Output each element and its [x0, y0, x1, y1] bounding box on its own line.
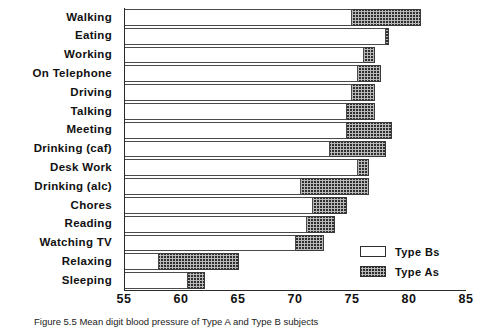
bar-type-bs	[125, 65, 358, 82]
bar-type-bs	[125, 28, 386, 45]
bar-row	[125, 158, 466, 177]
legend-swatch-open-icon	[360, 246, 386, 257]
bar-type-bs	[125, 216, 307, 233]
bar-type-bs	[125, 159, 358, 176]
category-axis-labels: Walking Eating Working On Telephone Driv…	[0, 8, 118, 290]
x-axis-ticks: 55606570758085	[124, 292, 466, 312]
bar-row	[125, 177, 466, 196]
bar-type-bs	[125, 178, 301, 195]
x-tick-label: 80	[402, 292, 417, 306]
legend-label: Type Bs	[395, 246, 440, 258]
category-label: Driving	[0, 83, 118, 102]
legend-item-type-bs: Type Bs	[360, 243, 472, 260]
category-label: Reading	[0, 215, 118, 234]
category-label: Desk Work	[0, 158, 118, 177]
legend-swatch-hatched-icon	[360, 266, 386, 277]
bar-row	[125, 215, 466, 234]
bar-chart: Walking Eating Working On Telephone Driv…	[0, 0, 482, 327]
bar-type-bs	[125, 47, 364, 64]
x-tick-label: 55	[117, 292, 132, 306]
bar-type-bs	[125, 103, 347, 120]
bar-row	[125, 46, 466, 65]
bar-type-bs	[125, 122, 347, 139]
category-label: Chores	[0, 196, 118, 215]
legend-item-type-as: Type As	[360, 263, 472, 280]
legend: Type Bs Type As	[360, 243, 472, 283]
x-axis-line	[124, 290, 466, 291]
bar-row	[125, 64, 466, 83]
bar-type-bs	[125, 9, 352, 26]
category-label: Meeting	[0, 121, 118, 140]
x-tick-label: 70	[288, 292, 303, 306]
category-label: Drinking (caf)	[0, 140, 118, 159]
category-label: Working	[0, 46, 118, 65]
bar-row	[125, 121, 466, 140]
category-label: Eating	[0, 27, 118, 46]
bar-type-bs	[125, 197, 313, 214]
x-tick-label: 60	[174, 292, 189, 306]
legend-label: Type As	[395, 266, 439, 278]
x-tick-label: 75	[345, 292, 360, 306]
x-tick-label: 85	[459, 292, 474, 306]
bar-type-bs	[125, 235, 296, 252]
bar-row	[125, 8, 466, 27]
category-label: Sleeping	[0, 271, 118, 290]
bar-row	[125, 83, 466, 102]
category-label: Watching TV	[0, 234, 118, 253]
figure-caption: Figure 5.5 Mean digit blood pressure of …	[34, 316, 464, 327]
bar-row	[125, 140, 466, 159]
bar-type-bs	[125, 272, 188, 289]
category-label: Relaxing	[0, 252, 118, 271]
bar-type-bs	[125, 253, 159, 270]
category-label: Talking	[0, 102, 118, 121]
bar-row	[125, 196, 466, 215]
category-label: Walking	[0, 8, 118, 27]
bar-row	[125, 27, 466, 46]
bar-type-bs	[125, 141, 330, 158]
x-tick-label: 65	[231, 292, 246, 306]
category-label: Drinking (alc)	[0, 177, 118, 196]
bar-row	[125, 102, 466, 121]
category-label: On Telephone	[0, 64, 118, 83]
bar-type-bs	[125, 84, 352, 101]
